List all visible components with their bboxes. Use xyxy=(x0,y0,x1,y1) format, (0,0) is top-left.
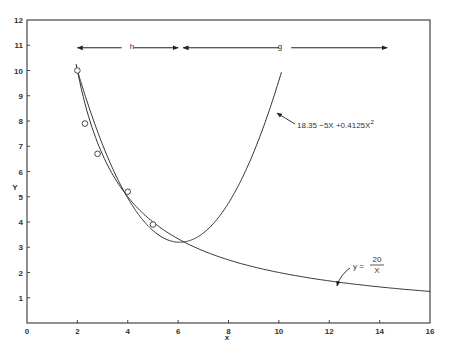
data-point xyxy=(125,189,131,195)
g-label: g xyxy=(278,42,282,51)
x-tick-label: 6 xyxy=(176,327,181,336)
plot-border xyxy=(27,20,430,323)
y-tick-label: 6 xyxy=(19,168,24,177)
y-tick-label: 5 xyxy=(19,193,24,202)
quadratic-curve xyxy=(77,71,281,243)
quad-leader-arrow xyxy=(277,113,295,124)
data-point xyxy=(150,222,156,228)
y-tick-label: 4 xyxy=(19,218,24,227)
x-tick-label: 10 xyxy=(274,327,283,336)
h-label: h xyxy=(130,42,134,51)
y-tick-label: 1 xyxy=(19,294,24,303)
quad-formula-label: 18.35 −5X +0.4125X2 xyxy=(297,119,374,130)
x-tick-label: 16 xyxy=(426,327,435,336)
plot-frame xyxy=(27,20,430,323)
axis-ticks: 0246810121416123456789101112 xyxy=(14,16,435,336)
y-tick-label: 10 xyxy=(14,67,23,76)
data-point xyxy=(95,151,101,157)
data-points xyxy=(75,68,156,228)
x-tick-label: 2 xyxy=(75,327,80,336)
data-point xyxy=(82,121,88,127)
x-tick-label: 14 xyxy=(375,327,384,336)
chart: 0246810121416123456789101112 x Y h g 18.… xyxy=(0,0,449,355)
x-tick-label: 12 xyxy=(325,327,334,336)
hyper-num: 20 xyxy=(373,255,382,264)
data-point xyxy=(75,68,81,74)
x-tick-label: 0 xyxy=(25,327,30,336)
y-tick-label: 11 xyxy=(15,41,24,50)
x-axis-title: x xyxy=(225,333,230,342)
y-axis-title: Y xyxy=(12,183,18,192)
x-tick-label: 4 xyxy=(126,327,131,336)
annotations xyxy=(77,48,387,286)
y-tick-label: 2 xyxy=(19,269,24,278)
y-tick-label: 7 xyxy=(19,142,24,151)
y-tick-label: 8 xyxy=(19,117,24,126)
hyper-den: X xyxy=(374,266,380,275)
y-tick-label: 3 xyxy=(19,243,24,252)
hyper-lhs: y = xyxy=(353,262,364,271)
y-tick-label: 9 xyxy=(19,92,24,101)
y-tick-label: 12 xyxy=(14,16,23,25)
